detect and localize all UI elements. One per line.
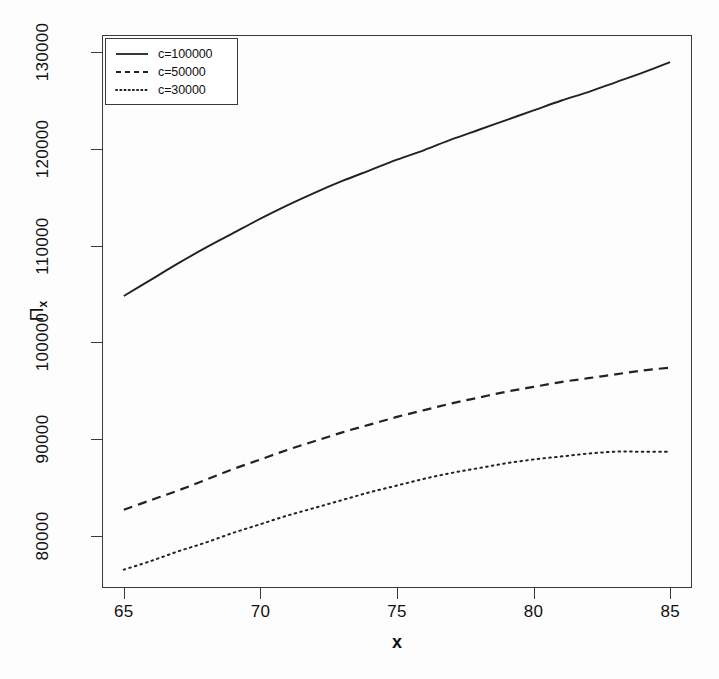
- y-axis-tick: [91, 52, 102, 53]
- y-axis-tick-label: 110000: [33, 217, 53, 274]
- y-axis-tick: [91, 149, 102, 150]
- y-axis-title-subscript: x: [36, 301, 50, 308]
- legend-label: c=50000: [158, 65, 206, 79]
- y-axis-tick-label: 80000: [33, 511, 53, 560]
- legend-item: c=50000: [115, 63, 237, 81]
- x-axis-tick: [124, 588, 125, 599]
- legend-item: c=30000: [115, 81, 237, 99]
- x-axis-title: x: [392, 632, 402, 653]
- x-axis-tick-label: 75: [387, 602, 407, 622]
- y-axis-tick: [91, 536, 102, 537]
- x-axis-tick-label: 85: [660, 602, 680, 622]
- legend-label: c=30000: [158, 83, 206, 97]
- legend-line-key-dashed: [115, 67, 149, 77]
- legend-label: c=100000: [158, 47, 212, 61]
- y-axis-tick: [91, 439, 102, 440]
- legend-item: c=100000: [115, 45, 237, 63]
- x-axis-tick: [670, 588, 671, 599]
- y-axis-tick-label: 100000: [33, 313, 53, 372]
- chart-figure: 8000090000100000110000120000130000 65707…: [0, 0, 719, 679]
- x-axis-tick: [534, 588, 535, 599]
- y-axis-tick: [91, 342, 102, 343]
- x-axis-tick-label: 70: [251, 602, 271, 622]
- y-axis-tick-label: 90000: [33, 415, 53, 464]
- x-axis-tick: [260, 588, 261, 599]
- x-axis-tick: [397, 588, 398, 599]
- legend: c=100000c=50000c=30000: [105, 38, 238, 105]
- legend-line-key-solid: [115, 49, 149, 59]
- x-axis-tick-label: 65: [114, 602, 134, 622]
- y-axis-title: Πx: [26, 301, 51, 321]
- series-line-2: [124, 368, 670, 510]
- series-line-3: [124, 452, 670, 570]
- y-axis-tick: [91, 246, 102, 247]
- plot-area: [102, 35, 692, 588]
- y-axis-tick-label: 130000: [33, 23, 53, 82]
- y-axis-title-base: Π: [26, 307, 47, 321]
- y-axis-tick-label: 120000: [33, 120, 53, 179]
- x-axis-tick-label: 80: [524, 602, 544, 622]
- legend-line-key-dotted: [115, 85, 149, 95]
